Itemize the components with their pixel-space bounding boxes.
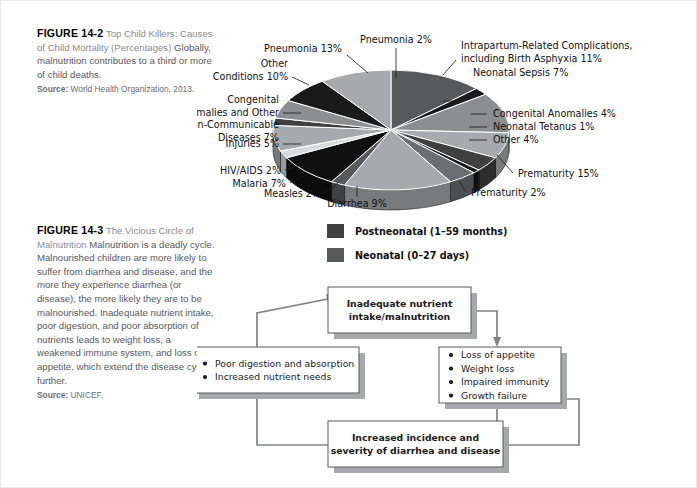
arrowhead-top-to-right — [493, 337, 501, 347]
pie-label-intrapartum: Intrapartum-Related Complications,includ… — [461, 40, 632, 64]
bullet-icon — [449, 366, 453, 370]
figure-14-3-caption: FIGURE 14-3 The Vicious Circle of Malnut… — [37, 224, 215, 402]
figure-14-3-source-label: Source: — [37, 390, 68, 400]
legend-label-postneonatal: Postneonatal (1–59 months) — [355, 226, 507, 237]
pie-label-congenital-anomalies: Congenital Anomalies 4% — [493, 108, 616, 119]
bullet-icon — [203, 361, 207, 365]
figure-14-2-caption: FIGURE 14-2 Top Child Killers: Causes of… — [37, 27, 215, 96]
figure-14-3-source: Source: UNICEF. — [37, 390, 215, 402]
bullet-icon — [449, 393, 453, 397]
pie-label-other-4: Other 4% — [493, 134, 539, 145]
pie-label-neonatal-tetanus: Neonatal Tetanus 1% — [493, 121, 594, 132]
cycle-box-line-increased-incidence-1: severity of diarrhea and disease — [331, 445, 501, 456]
cycle-box-rect-increased-incidence — [328, 421, 503, 467]
cycle-box-line-symptoms-1: Weight loss — [461, 363, 514, 374]
pie-label-pneumonia-13: Pneumonia 13% — [264, 43, 342, 54]
cycle-diagram-figure: Inadequate nutrientintake/malnutritionLo… — [197, 279, 692, 479]
pie-chart-figure: Pneumonia 13%Pneumonia 2%Intrapartum-Rel… — [197, 15, 692, 275]
figure-14-2-source-text: World Health Organization, 2013. — [71, 84, 195, 94]
pie-legend: Postneonatal (1–59 months)Neonatal (0–27… — [327, 224, 507, 262]
page-canvas: FIGURE 14-2 Top Child Killers: Causes of… — [0, 0, 697, 488]
pie-label-prematurity-2: Prematurity 2% — [471, 187, 546, 198]
cycle-box-rect-inadequate-nutrient — [328, 287, 471, 333]
cycle-box-symptoms[interactable]: Loss of appetiteWeight lossImpaired immu… — [439, 347, 567, 409]
figure-14-3-source-text: UNICEF. — [71, 390, 104, 400]
pie-label-diarrhea-9: Diarrhea 9% — [327, 198, 387, 209]
cycle-box-line-poor-digestion-0: Poor digestion and absorption — [215, 358, 354, 369]
pie-label-prematurity-15: Prematurity 15% — [518, 168, 599, 179]
cycle-box-line-inadequate-nutrient-1: intake/malnutrition — [349, 311, 450, 322]
cycle-box-increased-incidence[interactable]: Increased incidence andseverity of diarr… — [328, 421, 509, 473]
cycle-box-rect-poor-digestion — [197, 347, 359, 393]
cycle-box-line-symptoms-3: Growth failure — [461, 390, 527, 401]
bullet-icon — [449, 353, 453, 357]
cycle-diagram-svg: Inadequate nutrientintake/malnutritionLo… — [197, 279, 692, 479]
pie-label-measles-2: Measles 2% — [264, 188, 321, 199]
bullet-icon — [449, 380, 453, 384]
pie-label-malaria-7: Malaria 7% — [233, 178, 286, 189]
cycle-box-line-increased-incidence-0: Increased incidence and — [352, 432, 479, 443]
pie-label-neonatal-sepsis: Neonatal Sepsis 7% — [473, 67, 568, 78]
figure-14-3-number: FIGURE 14-3 — [37, 224, 103, 236]
figure-14-2-number: FIGURE 14-2 — [37, 27, 103, 39]
legend-label-neonatal: Neonatal (0–27 days) — [355, 250, 469, 261]
pie-label-congenital-ncd: CongenitalAnomalies and OtherNon-Communi… — [197, 94, 279, 143]
cycle-box-poor-digestion[interactable]: Poor digestion and absorptionIncreased n… — [197, 347, 365, 399]
legend-swatch-postneonatal — [327, 224, 344, 238]
cycle-box-inadequate-nutrient[interactable]: Inadequate nutrientintake/malnutrition — [328, 287, 477, 339]
cycle-box-line-poor-digestion-1: Increased nutrient needs — [215, 371, 331, 382]
pie-label-other-conditions: OtherConditions 10% — [213, 58, 288, 82]
pie-chart-svg: Pneumonia 13%Pneumonia 2%Intrapartum-Rel… — [197, 15, 692, 275]
arrow-left-to-top — [257, 299, 328, 347]
pie-label-pneumonia-2: Pneumonia 2% — [360, 34, 432, 45]
figure-14-2-source-label: Source: — [37, 84, 68, 94]
cycle-box-line-symptoms-2: Impaired immunity — [461, 376, 550, 387]
figure-14-3-body: Malnutrition is a deadly cycle. Malnouri… — [37, 239, 215, 386]
bullet-icon — [203, 375, 207, 379]
pie-label-hivaids-2: HIV/AIDS 2% — [220, 165, 281, 176]
figure-14-2-source: Source: World Health Organization, 2013. — [37, 84, 215, 96]
cycle-box-line-inadequate-nutrient-0: Inadequate nutrient — [347, 298, 453, 309]
arrow-bottom-to-left — [257, 397, 328, 445]
legend-swatch-neonatal — [327, 248, 344, 262]
cycle-box-line-symptoms-0: Loss of appetite — [461, 349, 535, 360]
